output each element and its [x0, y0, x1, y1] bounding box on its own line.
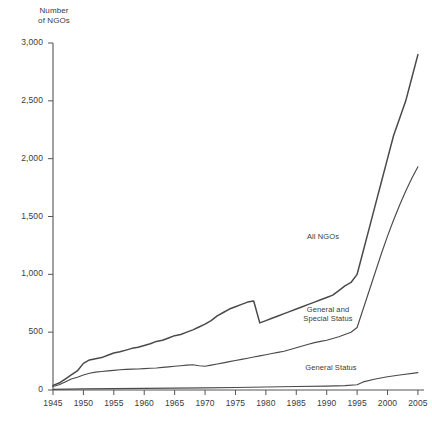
series-label-general-status: General Status: [293, 363, 369, 372]
x-tick-label: 2005: [403, 398, 432, 408]
x-tick-label: 1945: [38, 398, 68, 408]
x-tick-label: 1995: [342, 398, 372, 408]
chart-plot-area: [0, 0, 432, 424]
series-label-general-and-special-status: General and Special Status: [295, 305, 361, 323]
x-tick-label: 1955: [99, 398, 129, 408]
series-line-general-status: [53, 373, 418, 390]
y-tick-label: 3,000: [9, 37, 43, 47]
y-tick-label: 500: [9, 326, 43, 336]
x-tick-label: 1985: [281, 398, 311, 408]
x-tick-label: 1975: [220, 398, 250, 408]
x-tick-label: 1965: [160, 398, 190, 408]
ngo-growth-chart: Number of NGOs 05001,0001,5002,0002,5003…: [0, 0, 432, 424]
x-tick-label: 1970: [190, 398, 220, 408]
series-label-all-ngos: All NGOs: [296, 232, 350, 241]
x-tick-label: 2000: [373, 398, 403, 408]
y-tick-label: 2,000: [9, 153, 43, 163]
y-tick-label: 1,500: [9, 211, 43, 221]
series-line-general-and-special-status: [53, 167, 418, 387]
y-tick-label: 1,000: [9, 268, 43, 278]
y-tick-label: 0: [9, 384, 43, 394]
x-tick-label: 1990: [312, 398, 342, 408]
x-tick-label: 1950: [68, 398, 98, 408]
x-tick-label: 1980: [251, 398, 281, 408]
series-line-all-ngos: [53, 55, 418, 386]
y-tick-label: 2,500: [9, 95, 43, 105]
x-tick-label: 1960: [129, 398, 159, 408]
